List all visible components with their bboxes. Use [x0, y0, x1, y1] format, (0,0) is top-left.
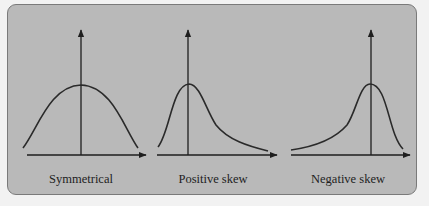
negative-skew-curve: [291, 84, 403, 150]
positive-skew-curve: [158, 84, 268, 151]
positive-skew-distribution: [157, 30, 277, 155]
label-symmetrical: Symmetrical: [49, 172, 113, 187]
label-positive-skew: Positive skew: [178, 172, 247, 187]
negative-skew-distribution: [291, 30, 410, 155]
symmetrical-distribution: [23, 30, 146, 155]
label-negative-skew: Negative skew: [311, 172, 385, 187]
